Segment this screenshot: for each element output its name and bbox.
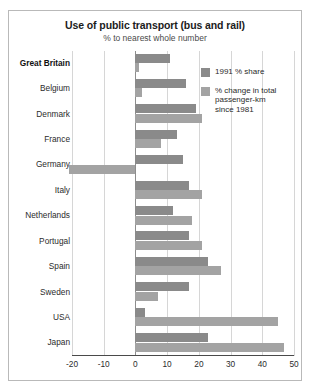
- chart-frame: Use of public transport (bus and rail) %…: [8, 10, 302, 381]
- category-label: Spain: [8, 261, 70, 271]
- x-tick-label: 10: [155, 359, 179, 369]
- bar: [135, 241, 202, 250]
- x-tick-label: 50: [282, 359, 306, 369]
- category-label: France: [8, 134, 70, 144]
- x-tick-label: -20: [60, 359, 84, 369]
- category-label: Sweden: [8, 287, 70, 297]
- legend-label-line3: since 1981: [215, 105, 254, 114]
- x-axis-line: [72, 355, 294, 356]
- bar: [135, 114, 202, 123]
- legend-label-line2: passenger-km: [215, 95, 266, 104]
- category-label: Japan: [8, 337, 70, 347]
- bar: [135, 333, 208, 342]
- legend-item-change: % change in totalpassenger-kmsince 1981: [201, 86, 305, 115]
- bar: [135, 266, 221, 275]
- legend-label-line1: % change in total: [215, 86, 276, 95]
- bar: [135, 216, 192, 225]
- bar: [135, 130, 176, 139]
- legend-swatch-icon: [201, 68, 210, 77]
- gridline: [167, 51, 168, 356]
- bar: [135, 139, 160, 148]
- gridline: [72, 51, 73, 356]
- category-label: Portugal: [8, 236, 70, 246]
- category-axis-labels: Great BritainBelgiumDenmarkFranceGermany…: [9, 51, 70, 356]
- x-tick-label: 0: [123, 359, 147, 369]
- bar: [135, 257, 208, 266]
- value-axis-labels: -20-1001020304050: [72, 359, 294, 373]
- category-label: USA: [8, 312, 70, 322]
- bar: [69, 165, 136, 174]
- chart-subtitle: % to nearest whole number: [9, 33, 301, 43]
- bar: [135, 206, 173, 215]
- bar: [135, 292, 157, 301]
- bar: [135, 181, 189, 190]
- chart-legend: 1991 % share % change in totalpassenger-…: [201, 67, 305, 123]
- chart-title: Use of public transport (bus and rail): [9, 19, 301, 31]
- x-tick-label: 40: [250, 359, 274, 369]
- gridline: [104, 51, 105, 356]
- bar: [135, 308, 145, 317]
- x-tick-label: 20: [187, 359, 211, 369]
- bar: [135, 282, 189, 291]
- gridline: [199, 51, 200, 356]
- bar: [135, 343, 284, 352]
- bar: [135, 63, 138, 72]
- bar: [135, 104, 195, 113]
- category-label: Great Britain: [8, 58, 70, 68]
- x-tick-label: 30: [219, 359, 243, 369]
- bar: [135, 155, 183, 164]
- category-label: Italy: [8, 185, 70, 195]
- x-tick-label: -10: [92, 359, 116, 369]
- bar: [135, 79, 186, 88]
- legend-item-share: 1991 % share: [201, 67, 305, 77]
- bar: [135, 190, 202, 199]
- category-label: Belgium: [8, 83, 70, 93]
- category-label: Netherlands: [8, 210, 70, 220]
- bar: [135, 317, 278, 326]
- category-label: Germany: [8, 159, 70, 169]
- legend-swatch-icon: [201, 87, 210, 96]
- bar: [135, 88, 141, 97]
- legend-label: 1991 % share: [215, 67, 305, 77]
- bar: [135, 54, 170, 63]
- legend-label: % change in totalpassenger-kmsince 1981: [215, 86, 305, 115]
- category-label: Denmark: [8, 109, 70, 119]
- bar: [135, 231, 189, 240]
